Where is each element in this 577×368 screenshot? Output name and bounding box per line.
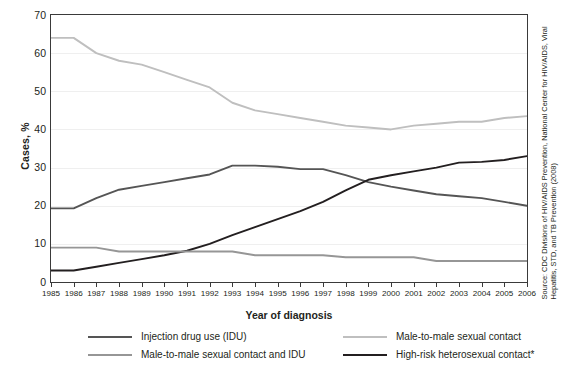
- x-tick-mark-1987: [96, 283, 97, 287]
- series-lines: [51, 15, 527, 282]
- y-tick-label-20: 20: [14, 200, 46, 210]
- series-line: [51, 166, 527, 209]
- plot-area: [50, 14, 528, 283]
- y-axis-title: Cases, %: [19, 101, 31, 191]
- legend-item-mmsc-idu: Male-to-male sexual contact and IDU: [88, 349, 306, 360]
- legend-label-heterosexual: High-risk heterosexual contact*: [396, 349, 534, 360]
- legend-item-idu: Injection drug use (IDU): [88, 331, 247, 342]
- x-tick-mark-2005: [504, 283, 505, 287]
- series-line: [51, 248, 527, 261]
- x-tick-mark-1999: [368, 283, 369, 287]
- x-tick-mark-1991: [187, 283, 188, 287]
- legend-swatch-idu: [88, 336, 132, 338]
- chart-figure: Cases, % 706050403020100 198519861987198…: [0, 0, 577, 368]
- legend-swatch-heterosexual: [343, 354, 387, 356]
- y-tick-label-60: 60: [14, 48, 46, 58]
- series-line: [51, 38, 527, 130]
- series-line: [51, 156, 527, 270]
- y-tick-label-10: 10: [14, 238, 46, 248]
- x-tick-mark-2003: [459, 283, 460, 287]
- x-tick-mark-1986: [74, 283, 75, 287]
- y-tick-label-50: 50: [14, 86, 46, 96]
- legend-item-mmsc: Male-to-male sexual contact: [343, 331, 521, 342]
- y-tick-label-0: 0: [14, 277, 46, 287]
- y-tick-label-30: 30: [14, 162, 46, 172]
- x-tick-mark-1990: [164, 283, 165, 287]
- x-tick-mark-1985: [51, 283, 52, 287]
- x-tick-mark-2006: [527, 283, 528, 287]
- x-tick-mark-2000: [391, 283, 392, 287]
- x-tick-mark-1989: [142, 283, 143, 287]
- legend-swatch-mmsc: [343, 336, 387, 338]
- y-tick-label-70: 70: [14, 10, 46, 20]
- chart-legend: Injection drug use (IDU) Male-to-male se…: [0, 331, 577, 368]
- legend-label-mmsc-idu: Male-to-male sexual contact and IDU: [141, 349, 306, 360]
- legend-label-mmsc: Male-to-male sexual contact: [396, 331, 521, 342]
- x-tick-mark-1988: [119, 283, 120, 287]
- legend-label-idu: Injection drug use (IDU): [141, 331, 247, 342]
- x-tick-mark-1994: [255, 283, 256, 287]
- legend-item-heterosexual: High-risk heterosexual contact*: [343, 349, 534, 360]
- legend-swatch-mmsc-idu: [88, 354, 132, 356]
- x-tick-mark-1995: [278, 283, 279, 287]
- x-tick-mark-2001: [414, 283, 415, 287]
- x-tick-mark-1998: [346, 283, 347, 287]
- x-tick-mark-1996: [300, 283, 301, 287]
- x-tick-mark-2002: [436, 283, 437, 287]
- x-tick-mark-1993: [232, 283, 233, 287]
- x-tick-mark-1997: [323, 283, 324, 287]
- y-tick-label-40: 40: [14, 124, 46, 134]
- x-tick-mark-2004: [482, 283, 483, 287]
- source-note: Source: CDC Divisions of HIV/AIDS Preven…: [540, 9, 559, 299]
- x-axis-title: Year of diagnosis: [50, 309, 528, 321]
- x-tick-mark-1992: [210, 283, 211, 287]
